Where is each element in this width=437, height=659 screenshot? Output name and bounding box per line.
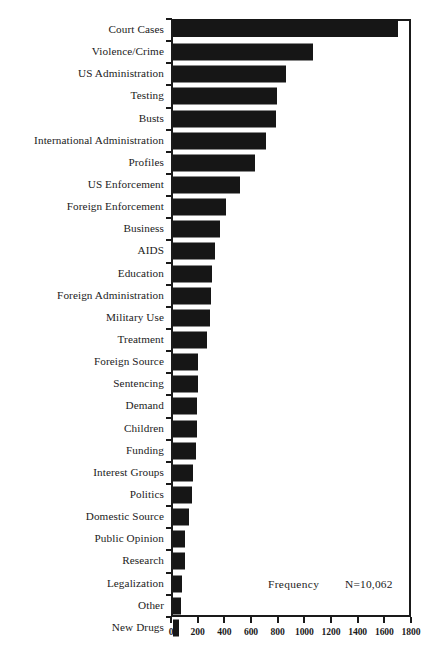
x-tick-label: 400 xyxy=(217,626,231,637)
bar xyxy=(173,398,197,415)
category-label: Research xyxy=(122,556,164,567)
category-label: Public Opinion xyxy=(95,534,164,545)
bar-row: Court Cases xyxy=(0,19,437,41)
bar-track xyxy=(173,63,411,85)
bar-track xyxy=(173,130,411,152)
x-tick xyxy=(277,617,279,623)
bar-row: Sentencing xyxy=(0,373,437,395)
category-tick xyxy=(166,129,172,131)
category-label: International Administration xyxy=(34,135,164,146)
bar-track xyxy=(173,307,411,329)
category-tick xyxy=(166,350,172,352)
bar-track xyxy=(173,418,411,440)
bar xyxy=(173,154,255,171)
bar xyxy=(173,243,215,260)
bar-track xyxy=(173,440,411,462)
x-tick-label: 600 xyxy=(244,626,258,637)
category-label: US Enforcement xyxy=(88,179,164,190)
x-tick xyxy=(383,617,385,623)
x-tick xyxy=(357,617,359,623)
category-tick xyxy=(166,549,172,551)
category-label: New Drugs xyxy=(112,622,164,633)
bar-row: Public Opinion xyxy=(0,528,437,550)
category-tick xyxy=(166,62,172,64)
category-label: Education xyxy=(118,268,164,279)
category-tick xyxy=(166,527,172,529)
category-label: AIDS xyxy=(137,246,164,257)
x-tick-label: 1600 xyxy=(375,626,394,637)
category-tick xyxy=(166,40,172,42)
category-tick xyxy=(166,173,172,175)
bar xyxy=(173,575,182,592)
category-tick xyxy=(166,394,172,396)
x-tick xyxy=(303,617,305,623)
x-tick-label: 200 xyxy=(191,626,205,637)
category-tick xyxy=(166,461,172,463)
bar-track xyxy=(173,373,411,395)
bar xyxy=(173,531,185,548)
bar-track xyxy=(173,196,411,218)
x-tick xyxy=(197,617,199,623)
bar xyxy=(173,354,198,371)
bar-row: Children xyxy=(0,418,437,440)
bar-row: Education xyxy=(0,263,437,285)
category-tick xyxy=(166,417,172,419)
bar-row: AIDS xyxy=(0,240,437,262)
bar xyxy=(173,509,189,526)
bar-track xyxy=(173,285,411,307)
category-label: Other xyxy=(138,600,164,611)
bar xyxy=(173,177,240,194)
bar-row: Foreign Source xyxy=(0,351,437,373)
x-tick xyxy=(410,617,412,623)
bar-track xyxy=(173,19,411,41)
bar-track xyxy=(173,462,411,484)
bar-track xyxy=(173,395,411,417)
bar xyxy=(173,88,277,105)
x-tick xyxy=(170,617,172,623)
category-tick xyxy=(166,217,172,219)
category-tick xyxy=(166,262,172,264)
category-label: Testing xyxy=(131,91,164,102)
bar-row: Interest Groups xyxy=(0,462,437,484)
category-label: Profiles xyxy=(128,157,164,168)
bar-track xyxy=(173,263,411,285)
category-tick xyxy=(166,239,172,241)
category-label: Foreign Administration xyxy=(57,290,164,301)
x-tick xyxy=(330,617,332,623)
bar-row: Funding xyxy=(0,440,437,462)
category-tick xyxy=(166,306,172,308)
bar-row: Politics xyxy=(0,484,437,506)
bar xyxy=(173,487,192,504)
bar-row: US Administration xyxy=(0,63,437,85)
bar-track xyxy=(173,152,411,174)
bar-row: Violence/Crime xyxy=(0,41,437,63)
category-tick xyxy=(166,505,172,507)
category-label: Busts xyxy=(139,113,164,124)
bar xyxy=(173,420,197,437)
bar xyxy=(173,199,226,216)
x-tick-label: 1000 xyxy=(295,626,314,637)
bar xyxy=(173,221,220,238)
bar xyxy=(173,597,181,614)
category-tick xyxy=(166,151,172,153)
bar-row: Research xyxy=(0,550,437,572)
x-tick-label: 1200 xyxy=(322,626,341,637)
category-tick xyxy=(166,84,172,86)
bar-row: Foreign Enforcement xyxy=(0,196,437,218)
category-label: Treatment xyxy=(118,334,164,345)
bar-track xyxy=(173,506,411,528)
category-label: Court Cases xyxy=(109,24,164,35)
bar-track xyxy=(173,108,411,130)
category-tick xyxy=(166,195,172,197)
category-label: Military Use xyxy=(106,312,164,323)
bar xyxy=(173,287,211,304)
bar xyxy=(173,442,196,459)
bar-row: Profiles xyxy=(0,152,437,174)
bar xyxy=(173,332,207,349)
bar-row: Military Use xyxy=(0,307,437,329)
bar-track xyxy=(173,41,411,63)
category-tick xyxy=(166,572,172,574)
bar-track xyxy=(173,218,411,240)
x-tick-label: 1800 xyxy=(402,626,421,637)
x-axis: 020040060080010001200140016001800 xyxy=(171,617,411,657)
